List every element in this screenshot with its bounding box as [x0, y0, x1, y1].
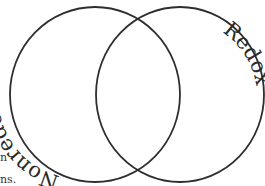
nonredox-label: Nonredox — [0, 99, 62, 186]
nonredox-circle — [10, 7, 180, 182]
venn-diagram: Nonredox Redox — [0, 0, 265, 186]
redox-label: Redox — [219, 17, 265, 88]
